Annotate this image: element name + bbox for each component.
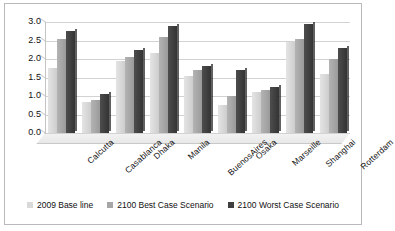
- bar-group: [147, 22, 181, 133]
- x-axis-category-label: Shanghai: [323, 137, 357, 169]
- bar-face: [320, 74, 329, 133]
- bar-face: [91, 100, 100, 133]
- bar-group: [79, 22, 113, 133]
- bar-group: [214, 22, 248, 133]
- y-axis-tick-label: 1.0: [7, 90, 41, 100]
- bar: [48, 68, 57, 133]
- bar-face: [168, 26, 177, 133]
- bar: [66, 31, 75, 133]
- bar: [286, 42, 295, 133]
- bar-face: [125, 57, 134, 133]
- legend-label: 2100 Best Case Scenario: [117, 200, 213, 210]
- bar-group: [282, 22, 316, 133]
- bar-side-3d: [347, 46, 349, 131]
- bar-face: [159, 37, 168, 133]
- bar: [57, 39, 66, 133]
- bar-side-3d: [109, 92, 111, 131]
- bar-face: [82, 102, 91, 133]
- bar-face: [329, 59, 338, 133]
- bar-groups: [45, 22, 350, 133]
- gridline: [45, 133, 350, 134]
- bar: [116, 61, 125, 133]
- legend-label: 2009 Base line: [37, 200, 93, 210]
- bar-face: [270, 87, 279, 133]
- legend-swatch-icon: [107, 202, 113, 208]
- bar-face: [116, 61, 125, 133]
- bar-face: [193, 70, 202, 133]
- y-axis-tick-label: 0.5: [7, 109, 41, 119]
- bar-face: [134, 50, 143, 133]
- x-axis-category-label: Calcutta: [85, 137, 115, 166]
- bar-face: [227, 96, 236, 133]
- bar: [304, 24, 313, 133]
- bar: [202, 66, 211, 133]
- bar-face: [304, 24, 313, 133]
- bar: [159, 37, 168, 133]
- bar-group: [316, 22, 350, 133]
- legend-label: 2100 Worst Case Scenario: [238, 200, 339, 210]
- bar: [168, 26, 177, 133]
- chart-legend: 2009 Base line2100 Best Case Scenario210…: [5, 200, 361, 210]
- bar-face: [100, 94, 109, 133]
- bar: [218, 105, 227, 133]
- x-axis-category-labels: CalcuttaCasablancaDhakaManilaBuenosAires…: [45, 137, 350, 185]
- bar: [295, 39, 304, 133]
- bar-side-3d: [245, 68, 247, 131]
- bar-side-3d: [211, 64, 213, 131]
- bar-face: [57, 39, 66, 133]
- bar: [134, 50, 143, 133]
- bar-side-3d: [279, 85, 281, 131]
- y-axis-tick-label: 0.0: [7, 127, 41, 137]
- bar-face: [295, 39, 304, 133]
- x-axis-category-label: Manila: [186, 137, 212, 162]
- legend-swatch-icon: [27, 202, 33, 208]
- bar-face: [66, 31, 75, 133]
- bar: [227, 96, 236, 133]
- bar-side-3d: [177, 24, 179, 131]
- bar: [329, 59, 338, 133]
- bar-face: [286, 42, 295, 133]
- bar-face: [252, 92, 261, 133]
- bar-face: [236, 70, 245, 133]
- bar: [193, 70, 202, 133]
- chart-frame: 3.02.52.01.51.00.50.0 CalcuttaCasablanca…: [4, 3, 362, 225]
- bar: [150, 53, 159, 133]
- bar-side-3d: [75, 29, 77, 131]
- y-axis-tick-label: 3.0: [7, 16, 41, 26]
- bar-group: [45, 22, 79, 133]
- bar: [100, 94, 109, 133]
- bar-face: [218, 105, 227, 133]
- bar-group: [248, 22, 282, 133]
- bar: [261, 90, 270, 133]
- bar: [125, 57, 134, 133]
- bar: [91, 100, 100, 133]
- bar: [82, 102, 91, 133]
- bar-side-3d: [143, 48, 145, 131]
- legend-item[interactable]: 2100 Best Case Scenario: [107, 200, 213, 210]
- bar: [320, 74, 329, 133]
- bar-face: [184, 76, 193, 133]
- bar-face: [261, 90, 270, 133]
- x-axis-category-label: Rotterdam: [358, 137, 395, 172]
- bar: [252, 92, 261, 133]
- legend-item[interactable]: 2009 Base line: [27, 200, 93, 210]
- bar-face: [48, 68, 57, 133]
- bar-group: [113, 22, 147, 133]
- y-axis-tick-label: 1.5: [7, 72, 41, 82]
- bar: [338, 48, 347, 133]
- plot-area: [45, 22, 350, 133]
- bar-side-3d: [313, 22, 315, 131]
- bar-face: [338, 48, 347, 133]
- bar: [184, 76, 193, 133]
- legend-swatch-icon: [228, 202, 234, 208]
- legend-item[interactable]: 2100 Worst Case Scenario: [228, 200, 339, 210]
- bar: [236, 70, 245, 133]
- y-axis-tick-label: 2.5: [7, 35, 41, 45]
- bar-group: [181, 22, 215, 133]
- bar-face: [202, 66, 211, 133]
- bar: [270, 87, 279, 133]
- bar-face: [150, 53, 159, 133]
- y-axis-tick-label: 2.0: [7, 53, 41, 63]
- x-axis-category-label: Marseille: [290, 137, 323, 168]
